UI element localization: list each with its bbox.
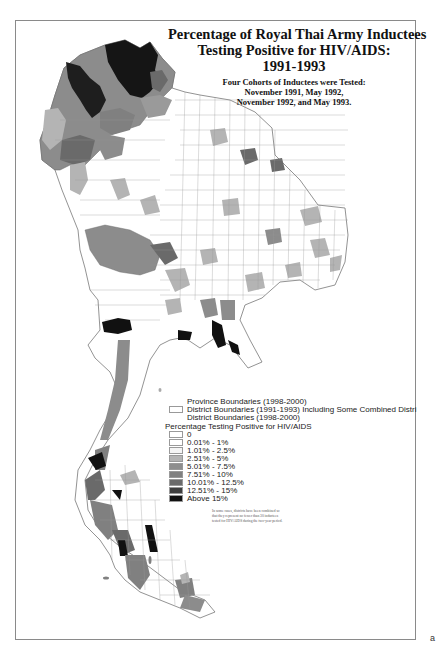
corner-mark: a <box>430 633 435 643</box>
legend-swatch <box>169 447 183 454</box>
legend-footnote: In some cases, districts have been combi… <box>212 509 284 524</box>
legend-class-8: Above 15% <box>165 495 415 503</box>
district-boundary-symbol <box>169 406 183 413</box>
title-line-2: Testing Positive for HIV/AIDS: <box>168 42 420 58</box>
legend-swatch <box>169 479 183 486</box>
legend-swatch <box>169 431 183 438</box>
title-line-1: Percentage of Royal Thai Army Inductees <box>168 26 420 42</box>
legend-swatch <box>169 471 183 478</box>
legend-swatch <box>169 439 183 446</box>
legend-swatch <box>169 487 183 494</box>
legend-swatch <box>169 463 183 470</box>
legend-swatch <box>169 495 183 502</box>
legend-district-boundaries-1998: District Boundaries (1998-2000) <box>165 414 415 422</box>
province-boundary-symbol <box>169 398 183 405</box>
subtitle-line-1: Four Cohorts of Inductees were Tested: <box>168 77 420 87</box>
subtitle: Four Cohorts of Inductees were Tested: N… <box>168 77 420 107</box>
map-title-block: Percentage of Royal Thai Army Inductees … <box>168 26 420 107</box>
district-boundary-1998-symbol <box>169 414 183 421</box>
map-legend: Province Boundaries (1998-2000) District… <box>165 398 415 503</box>
legend-swatch <box>169 455 183 462</box>
title-line-3: 1991-1993 <box>168 58 420 74</box>
legend-heading: Percentage Testing Positive for HIV/AIDS <box>165 422 415 431</box>
subtitle-line-2: November 1991, May 1992, <box>168 87 420 97</box>
subtitle-line-3: November 1992, and May 1993. <box>168 97 420 107</box>
